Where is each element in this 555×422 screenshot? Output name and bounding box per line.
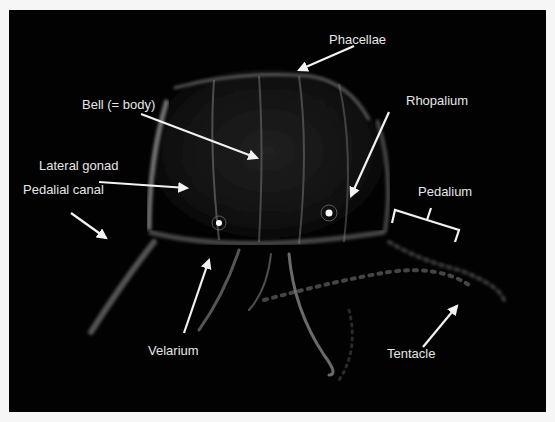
specimen-photo-frame: Phacellae Bell (= body) Rhopalium Latera… xyxy=(9,10,546,412)
arrow-pedalial-canal xyxy=(71,213,106,238)
label-pedalium: Pedalium xyxy=(418,184,472,199)
jellyfish-illustration xyxy=(9,10,546,412)
label-phacellae: Phacellae xyxy=(329,32,386,47)
label-velarium: Velarium xyxy=(148,343,199,358)
bracket-pedalium xyxy=(392,210,459,242)
arrow-tentacle xyxy=(423,306,457,347)
label-lateral-gonad: Lateral gonad xyxy=(39,158,119,173)
bracket-pedalium-stem xyxy=(427,208,431,220)
tentacles-shape xyxy=(91,242,504,380)
label-bell: Bell (= body) xyxy=(82,97,155,112)
label-tentacle: Tentacle xyxy=(387,346,435,361)
bell-shape xyxy=(148,70,388,248)
label-rhopalium: Rhopalium xyxy=(406,93,468,108)
arrow-phacellae xyxy=(299,46,354,70)
label-pedalial-canal: Pedalial canal xyxy=(23,182,104,197)
